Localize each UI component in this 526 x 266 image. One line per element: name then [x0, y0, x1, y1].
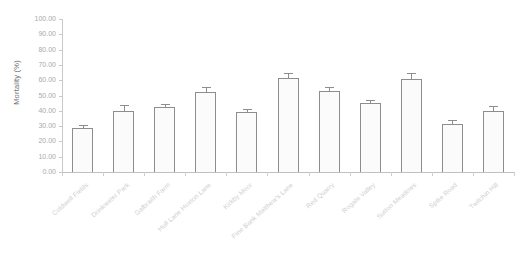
bar [278, 78, 299, 172]
x-axis-tick-mark [309, 172, 310, 176]
x-axis-tick-mark [514, 172, 515, 176]
x-axis-tick-mark [473, 172, 474, 176]
x-axis-tick-mark [432, 172, 433, 176]
x-axis-tick-mark [350, 172, 351, 176]
bar [195, 92, 216, 172]
y-axis-tick-label: 0.00 [4, 168, 56, 175]
y-axis-tick-mark [59, 141, 63, 142]
y-axis-tick-label: 20.00 [4, 137, 56, 144]
bar [401, 79, 422, 172]
y-axis-tick-mark [59, 80, 63, 81]
y-axis-tick-label: 60.00 [4, 76, 56, 83]
y-axis-tick-mark [59, 65, 63, 66]
y-axis-tick-mark [59, 96, 63, 97]
chart-figure: Mortality (%) 0.0010.0020.0030.0040.0050… [0, 0, 526, 266]
y-axis-tick-mark [59, 111, 63, 112]
y-axis-tick-mark [59, 19, 63, 20]
error-bar-cap [161, 104, 170, 105]
y-axis-tick-mark [59, 50, 63, 51]
error-bar-cap [366, 100, 375, 101]
x-axis-tick-mark [226, 172, 227, 176]
x-axis-tick-mark [103, 172, 104, 176]
error-bar-cap [202, 87, 211, 88]
error-bar-cap [120, 105, 129, 106]
error-bar-cap [243, 109, 252, 110]
x-axis-tick-mark [391, 172, 392, 176]
x-axis-tick-label: Pine Bank Matthew's Lane [198, 181, 295, 266]
bar [483, 111, 504, 172]
x-axis-tick-label: Spike Road [362, 181, 459, 266]
y-axis-tick-mark [59, 34, 63, 35]
y-axis-tick-label: 50.00 [4, 92, 56, 99]
y-axis-tick-label: 70.00 [4, 61, 56, 68]
bar [319, 91, 340, 172]
y-axis-tick-label: 30.00 [4, 122, 56, 129]
bar [236, 112, 257, 172]
x-axis-tick-label: Rogate Valley [280, 181, 377, 266]
x-axis-tick-label: Kirkby Moor [156, 181, 253, 266]
y-axis-tick-mark [59, 126, 63, 127]
bar [442, 124, 463, 172]
x-axis-tick-label: Red Quarry [239, 181, 336, 266]
error-bar-cap [407, 73, 416, 74]
bar [360, 103, 381, 172]
y-axis-tick-label: 40.00 [4, 107, 56, 114]
error-bar-cap [489, 106, 498, 107]
y-axis-tick-label: 100.00 [4, 15, 56, 22]
bar [154, 107, 175, 172]
error-bar-cap [325, 87, 334, 88]
x-axis-tick-mark [62, 172, 63, 176]
x-axis-tick-mark [267, 172, 268, 176]
bar [72, 128, 93, 172]
y-axis-tick-label: 10.00 [4, 153, 56, 160]
x-axis-line [62, 172, 514, 173]
x-axis-tick-mark [185, 172, 186, 176]
error-bar-cap [448, 120, 457, 121]
bar [113, 111, 134, 172]
y-axis-tick-mark [59, 157, 63, 158]
x-axis-tick-label: Twitchin Hill [403, 181, 500, 266]
y-axis-tick-label: 90.00 [4, 30, 56, 37]
x-axis-tick-label: Sutton Meadows [321, 181, 418, 266]
y-axis-tick-label: 80.00 [4, 46, 56, 53]
x-axis-tick-mark [144, 172, 145, 176]
plot-area: 0.0010.0020.0030.0040.0050.0060.0070.008… [62, 19, 514, 172]
error-bar-cap [284, 73, 293, 74]
error-bar-cap [79, 125, 88, 126]
